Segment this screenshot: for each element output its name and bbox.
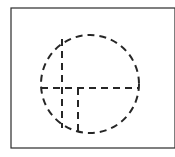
- diagram-canvas: Dashed circle with centerlines: [0, 0, 175, 157]
- figure-root: Dashed circle with centerlines: [0, 0, 175, 157]
- figure-background: [0, 0, 175, 157]
